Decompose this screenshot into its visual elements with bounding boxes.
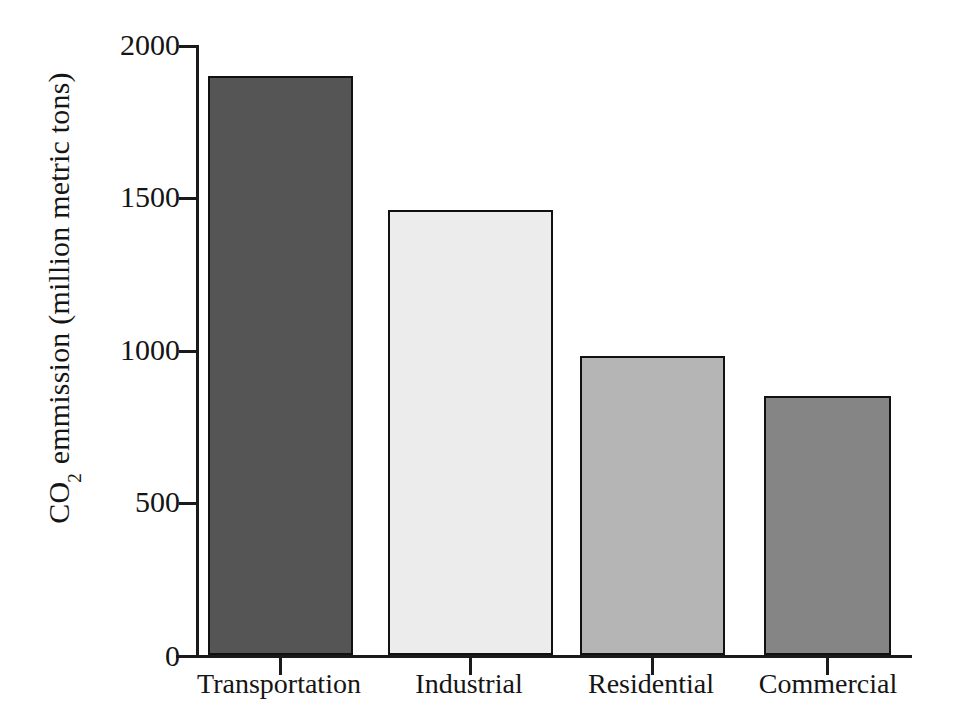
x-axis-label-industrial: Industrial [379, 668, 559, 700]
bar-transportation[interactable] [208, 76, 353, 656]
bar-residential[interactable] [580, 356, 725, 655]
x-axis-line [176, 655, 912, 658]
bar-chart: CO2 emmission (million metric tons) 2000… [0, 0, 956, 704]
y-tick-label-2000: 2000 [60, 30, 180, 60]
y-tick-label-1500: 1500 [60, 182, 180, 212]
x-axis-label-transportation: Transportation [159, 668, 399, 700]
y-tick-label-1000: 1000 [60, 335, 180, 365]
y-axis-tick-labels: 2000 1500 1000 500 0 [40, 0, 180, 704]
bar-commercial[interactable] [764, 396, 891, 655]
bar-industrial[interactable] [388, 210, 553, 655]
y-tick-mark-2000 [179, 45, 196, 48]
x-axis-label-residential: Residential [556, 668, 746, 700]
y-tick-label-500: 500 [60, 487, 180, 517]
y-tick-mark-500 [179, 502, 196, 505]
y-tick-mark-1500 [179, 197, 196, 200]
y-tick-mark-0 [179, 655, 196, 658]
y-tick-mark-1000 [179, 350, 196, 353]
y-axis-line [196, 45, 199, 658]
x-axis-label-commercial: Commercial [733, 668, 923, 700]
y-tick-label-0: 0 [60, 641, 180, 671]
